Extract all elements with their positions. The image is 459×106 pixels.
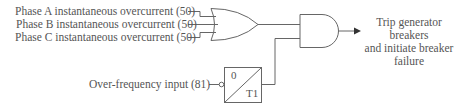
timer-pickup-label: 0: [231, 69, 237, 81]
input-label-phase-a: Phase A instantaneous overcurrent (50): [15, 5, 195, 18]
input-label-over-frequency: Over-frequency input (81): [89, 78, 210, 91]
output-line-3: and initiate breaker: [360, 42, 458, 55]
input-label-phase-c: Phase C instantaneous overcurrent (50): [15, 31, 196, 44]
output-line-1: Trip generator: [360, 16, 458, 29]
logic-diagram: Phase A instantaneous overcurrent (50) P…: [0, 0, 459, 106]
timer-dropout-label: T1: [246, 87, 258, 99]
output-label: Trip generator breakers and initiate bre…: [360, 16, 458, 68]
timer-output-wire: [262, 39, 300, 85]
output-line-2: breakers: [360, 29, 458, 42]
output-line-4: failure: [360, 55, 458, 68]
and-gate-shape: [300, 15, 339, 48]
input-label-phase-b: Phase B instantaneous overcurrent (50): [16, 18, 197, 31]
inverter-circle: [219, 82, 224, 87]
or-gate-shape: [211, 9, 258, 41]
